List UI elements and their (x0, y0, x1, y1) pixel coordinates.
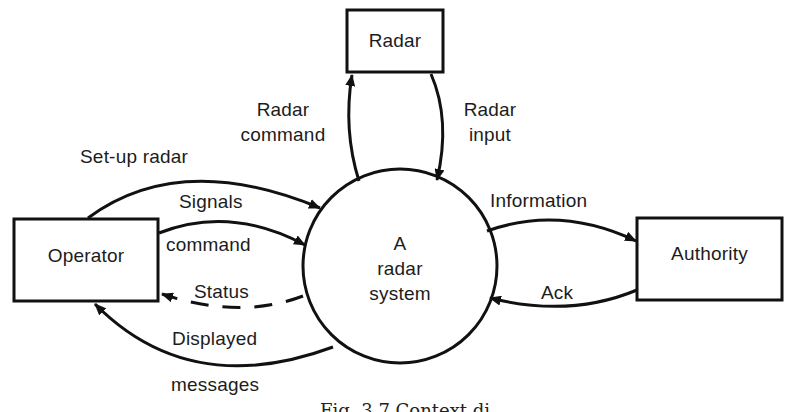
process-label-line-3: system (340, 281, 460, 306)
radar-input-line-1: Radar (455, 97, 525, 122)
process-label: A radar system (340, 231, 460, 306)
displayed-label: Displayed (172, 328, 257, 350)
context-diagram: Radar Operator Authority A radar system … (0, 0, 788, 412)
radar-command-line-1: Radar (228, 97, 338, 122)
operator-label: Operator (14, 245, 158, 267)
information-label: Information (490, 190, 587, 212)
diagram-graphics (0, 0, 788, 412)
radar-command-label: Radar command (228, 97, 338, 147)
radar-input-line-2: input (455, 122, 525, 147)
command-label: command (166, 234, 251, 256)
status-label: Status (194, 281, 249, 303)
figure-caption: Fig. 3.7 Context di (320, 398, 490, 412)
flow-radar-input (431, 74, 443, 180)
radar-input-label: Radar input (455, 97, 525, 147)
signals-label: Signals (179, 191, 243, 213)
flow-information (487, 220, 636, 241)
ack-label: Ack (541, 282, 573, 304)
process-label-line-1: A (340, 231, 460, 256)
setup-radar-label: Set-up radar (80, 146, 188, 168)
process-label-line-2: radar (340, 256, 460, 281)
flow-radar-command (349, 75, 359, 181)
messages-label: messages (171, 374, 259, 396)
radar-label: Radar (347, 30, 443, 52)
radar-command-line-2: command (228, 122, 338, 147)
authority-label: Authority (637, 243, 782, 265)
